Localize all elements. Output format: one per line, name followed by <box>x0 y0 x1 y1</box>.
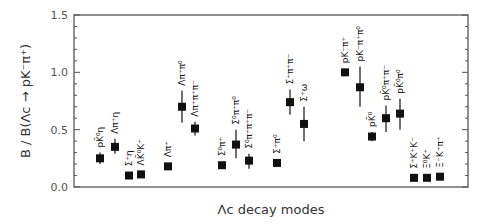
point-label: Ξ⁰K⁺ <box>422 149 432 169</box>
point-label: Λπ⁺ <box>163 141 173 158</box>
square-marker <box>245 157 253 165</box>
square-marker <box>410 174 418 182</box>
square-marker <box>96 154 104 162</box>
square-marker <box>286 98 294 106</box>
square-marker <box>178 103 186 111</box>
y-tick-label: 0.0 <box>51 181 69 194</box>
data-point: ΛK̄⁰K⁺ <box>135 139 146 179</box>
point-label: pK̄⁰ <box>366 111 377 127</box>
square-marker <box>232 141 240 149</box>
data-point: Ξ⁰K⁺ <box>422 149 432 182</box>
square-marker <box>341 68 349 76</box>
point-label: pK⁻π⁺π⁰ <box>355 26 365 62</box>
data-point: Σ⁺η <box>124 150 134 179</box>
square-marker <box>111 143 119 151</box>
point-label: pK̄⁰π⁺π⁻ <box>380 65 391 101</box>
square-marker <box>218 161 226 169</box>
square-marker <box>164 162 172 170</box>
data-point: pK̄⁰π⁰ <box>394 69 405 130</box>
data-point: Σ⁺ω <box>299 84 309 141</box>
point-label: Σ⁰π⁺π⁺π⁻ <box>244 109 254 149</box>
point-label: Σ⁺π⁰ <box>272 134 282 154</box>
x-axis-title: Λc decay modes <box>217 202 324 217</box>
y-tick-label: 0.5 <box>51 124 69 137</box>
data-points: pK̄⁰ηΛπ⁺ηΣ⁺ηΛK̄⁰K⁺Λπ⁺Λπ⁺π⁰Λπ⁺π⁺π⁻Σ⁰π⁺Σ⁰π… <box>94 26 445 182</box>
data-point: Σ⁰π⁺π⁺π⁻ <box>244 109 254 169</box>
square-marker <box>382 114 390 122</box>
square-marker <box>125 172 133 180</box>
branching-ratio-chart: 0.00.51.01.5 pK̄⁰ηΛπ⁺ηΣ⁺ηΛK̄⁰K⁺Λπ⁺Λπ⁺π⁰Λ… <box>0 0 489 224</box>
point-label: Σ⁺ω <box>299 84 309 102</box>
y-axis-ticks: 0.00.51.01.5 <box>51 9 469 194</box>
point-label: Σ⁺π⁺π⁻ <box>285 54 295 85</box>
data-point: Σ⁺K⁺K⁻ <box>409 137 419 182</box>
data-point: Σ⁰π⁺ <box>217 137 227 170</box>
data-point: Λπ⁺ <box>163 141 173 171</box>
point-label: pK⁻π⁺ <box>340 37 350 64</box>
y-tick-label: 1.0 <box>51 66 69 79</box>
data-point: Ξ⁻K⁺π⁺ <box>435 136 445 181</box>
y-axis-title: B / B(Λc → pK⁻π⁺) <box>18 44 33 158</box>
square-marker <box>368 133 376 141</box>
point-label: pK̄⁰π⁰ <box>394 69 405 94</box>
point-label: Σ⁰π⁺π⁰ <box>231 96 241 125</box>
data-point: pK̄⁰η <box>94 127 105 164</box>
square-marker <box>191 125 199 133</box>
data-point: pK⁻π⁺ <box>340 37 350 77</box>
point-label: Σ⁺η <box>124 150 134 166</box>
data-point: Λπ⁺η <box>110 112 120 154</box>
data-point: Σ⁺π⁰ <box>272 134 282 167</box>
square-marker <box>423 174 431 182</box>
point-label: Λπ⁺π⁰ <box>177 60 187 86</box>
point-label: Σ⁺K⁺K⁻ <box>409 137 419 169</box>
point-label: Ξ⁻K⁺π⁺ <box>435 136 445 168</box>
data-point: Σ⁺π⁺π⁻ <box>285 54 295 115</box>
point-label: Σ⁰π⁺ <box>217 137 227 157</box>
data-point: pK⁻π⁺π⁰ <box>355 26 365 107</box>
square-marker <box>356 83 364 91</box>
data-point: Σ⁰π⁺π⁰ <box>231 96 241 159</box>
square-marker <box>300 120 308 128</box>
y-tick-label: 1.5 <box>51 9 69 22</box>
point-label: pK̄⁰η <box>94 127 105 148</box>
point-label: Λπ⁺η <box>110 112 120 134</box>
data-point: Λπ⁺π⁺π⁻ <box>190 80 200 136</box>
data-point: pK̄⁰ <box>366 111 377 141</box>
data-point: Λπ⁺π⁰ <box>177 60 187 123</box>
square-marker <box>137 170 145 178</box>
data-point: pK̄⁰π⁺π⁻ <box>380 65 391 132</box>
square-marker <box>436 173 444 181</box>
point-label: ΛK̄⁰K⁺ <box>135 139 146 166</box>
point-label: Λπ⁺π⁺π⁻ <box>190 80 200 117</box>
square-marker <box>273 159 281 167</box>
square-marker <box>396 110 404 118</box>
